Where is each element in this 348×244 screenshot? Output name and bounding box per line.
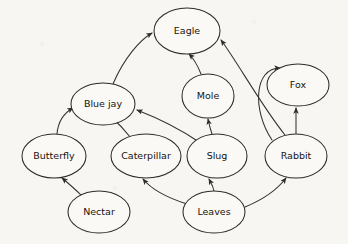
- node-nectar[interactable]: Nectar: [68, 191, 130, 233]
- node-bluejay[interactable]: Blue jay: [71, 83, 135, 125]
- nodes-layer: EagleBlue jayMoleFoxButterflyCaterpillar…: [22, 8, 329, 233]
- node-shape-butterfly[interactable]: [22, 134, 86, 178]
- edge-leaves-slug: Leaves eaten by Slug: [209, 179, 214, 191]
- node-shape-rabbit[interactable]: [265, 134, 327, 178]
- node-eagle[interactable]: Eagle: [154, 8, 220, 54]
- node-shape-caterpillar[interactable]: [111, 134, 181, 178]
- edge-nectar-butterfly: Nectar eaten by Butterfly: [62, 178, 82, 196]
- node-rabbit[interactable]: Rabbit: [265, 134, 327, 178]
- edge-mole-eagle: Mole eaten by Eagle: [189, 54, 201, 74]
- node-fox[interactable]: Fox: [267, 64, 329, 106]
- node-caterpillar[interactable]: Caterpillar: [111, 134, 181, 178]
- node-butterfly[interactable]: Butterfly: [22, 134, 86, 178]
- node-shape-eagle[interactable]: [154, 8, 220, 54]
- edge-leaves-caterpillar: Leaves eaten by Caterpillar: [143, 179, 187, 204]
- edge-slug-mole: Slug eaten by Mole: [208, 119, 212, 134]
- edge-bluejay-eagle: Blue jay eaten by Eagle: [113, 33, 152, 84]
- node-shape-leaves[interactable]: [183, 191, 245, 233]
- node-shape-bluejay[interactable]: [71, 83, 135, 125]
- node-shape-slug[interactable]: [187, 134, 247, 178]
- edge-butterfly-bluejay: Butterfly eaten by Blue jay: [57, 108, 73, 134]
- node-mole[interactable]: Mole: [182, 74, 234, 118]
- node-leaves[interactable]: Leaves: [183, 191, 245, 233]
- food-web-diagram: Blue jay eaten by EagleMole eaten by Eag…: [0, 0, 348, 244]
- food-web-graph: Blue jay eaten by EagleMole eaten by Eag…: [0, 0, 348, 244]
- node-shape-mole[interactable]: [182, 74, 234, 118]
- node-shape-nectar[interactable]: [68, 191, 130, 233]
- edge-leaves-rabbit: Leaves eaten by Rabbit: [245, 178, 286, 207]
- node-shape-fox[interactable]: [267, 64, 329, 106]
- node-slug[interactable]: Slug: [187, 134, 247, 178]
